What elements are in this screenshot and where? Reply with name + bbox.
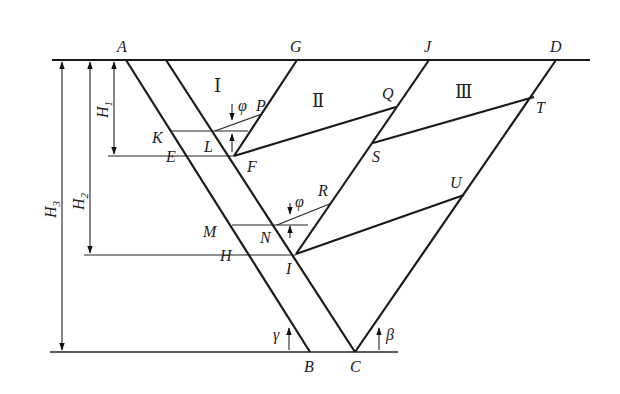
label-A: A [116, 38, 127, 55]
label-R: R [317, 182, 328, 199]
label-H: H [219, 247, 233, 264]
label-Q: Q [382, 85, 394, 102]
label-L: L [203, 138, 213, 155]
dimension-label-H3: H3 [42, 200, 62, 219]
angle-gamma-label: γ [273, 326, 280, 344]
label-J: J [424, 38, 432, 55]
label-P: P [255, 97, 266, 114]
region-III-label: Ⅲ [455, 82, 472, 102]
label-E: E [165, 148, 176, 165]
label-I: I [285, 260, 292, 277]
label-N: N [259, 229, 272, 246]
label-K: K [151, 129, 164, 146]
region-I-label: Ⅰ [214, 76, 221, 96]
angle-phi-label-2: φ [295, 193, 304, 211]
line-D-C [355, 60, 556, 352]
label-M: M [202, 223, 218, 240]
dimension-label-H1: H1 [94, 101, 114, 119]
label-U: U [450, 174, 463, 191]
label-G: G [290, 38, 302, 55]
line-I-U [296, 195, 464, 254]
label-F: F [246, 158, 257, 175]
angle-phi-label-1: φ [238, 97, 247, 115]
region-II-label: Ⅱ [312, 91, 324, 111]
dimension-label-H2: H2 [70, 192, 90, 211]
svg-text:H3: H3 [42, 200, 62, 219]
label-D: D [549, 38, 562, 55]
label-C: C [350, 358, 361, 375]
line-J-I [296, 60, 429, 254]
geometry-diagram: A G J D K L E F P Q S T M N H I R U B C … [0, 0, 620, 394]
label-T: T [536, 99, 546, 116]
svg-text:H1: H1 [94, 101, 114, 119]
angle-beta-label: β [385, 326, 394, 344]
line-S-T [373, 97, 534, 143]
label-S: S [372, 148, 380, 165]
svg-text:H2: H2 [70, 192, 90, 211]
line-A-B [126, 60, 310, 352]
label-B: B [304, 358, 314, 375]
